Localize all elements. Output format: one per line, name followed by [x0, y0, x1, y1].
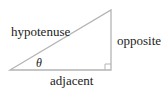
theta-angle-label: θ [36, 57, 42, 69]
right-angle-marker [105, 64, 111, 70]
right-triangle-diagram: hypotenuse opposite adjacent θ [0, 0, 167, 98]
opposite-label: opposite [117, 34, 161, 47]
adjacent-label: adjacent [50, 74, 93, 87]
hypotenuse-label: hypotenuse [11, 25, 70, 38]
triangle-outline [10, 10, 111, 70]
